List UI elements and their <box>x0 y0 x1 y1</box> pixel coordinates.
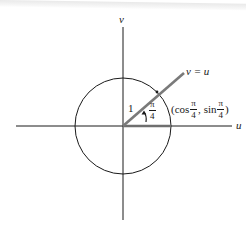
angle-denominator: 4 <box>150 111 155 121</box>
v-axis-label: v <box>119 14 124 25</box>
angle-numerator: π <box>149 100 156 111</box>
sin-numerator: π <box>217 99 224 110</box>
angle-label: π 4 <box>148 100 157 121</box>
cos-function: cos <box>175 104 190 115</box>
cos-denominator: 4 <box>191 110 196 120</box>
angle-arrowhead-icon <box>142 111 147 115</box>
close-paren: ) <box>225 104 229 115</box>
point-coordinate-label: ( cos π 4 , sin π 4 ) <box>171 99 229 120</box>
intersection-point <box>156 91 159 94</box>
sin-function: sin <box>204 104 217 115</box>
cos-argument: π 4 <box>190 99 197 120</box>
separator: , <box>198 104 201 115</box>
sin-denominator: 4 <box>219 110 224 120</box>
line-label: v = u <box>186 66 209 77</box>
u-axis-label: u <box>236 120 242 131</box>
radius-label: 1 <box>128 103 134 114</box>
angle-fraction: π 4 <box>149 100 156 121</box>
sin-argument: π 4 <box>217 99 224 120</box>
cos-numerator: π <box>190 99 197 110</box>
